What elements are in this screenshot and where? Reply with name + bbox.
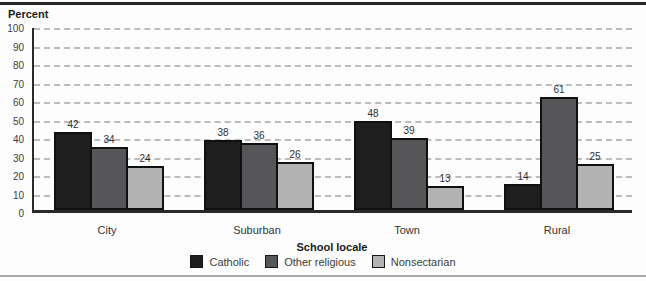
bar-town-catholic — [354, 121, 392, 210]
y-tick-label-100: 100 — [0, 23, 28, 34]
plot-area: 423424383626483913146125 — [32, 28, 632, 213]
bar-city-other-religious — [90, 147, 128, 210]
bar-value-label: 61 — [540, 84, 578, 95]
bar-value-label: 14 — [504, 171, 542, 182]
legend-swatch-icon — [265, 255, 278, 268]
bar-suburban-catholic — [204, 140, 242, 210]
bar-rural-catholic — [504, 184, 542, 210]
legend-swatch-icon — [372, 255, 385, 268]
legend: CatholicOther religiousNonsectarian — [0, 255, 646, 268]
bar-value-label: 26 — [276, 149, 314, 160]
bottom-border-rule — [0, 275, 646, 277]
category-label-town: Town — [332, 224, 482, 236]
bar-suburban-nonsectarian — [276, 162, 314, 210]
category-label-suburban: Suburban — [182, 224, 332, 236]
legend-swatch-icon — [190, 255, 203, 268]
bar-city-catholic — [54, 132, 92, 210]
bar-group-suburban: 383626 — [184, 28, 334, 210]
y-tick-label-30: 30 — [0, 153, 28, 164]
top-border-rule — [0, 2, 646, 5]
legend-label: Catholic — [209, 256, 249, 268]
legend-label: Other religious — [284, 256, 356, 268]
bar-group-city: 423424 — [34, 28, 184, 210]
bar-chart-figure: Percent 0102030405060708090100 423424383… — [0, 0, 646, 281]
bar-city-nonsectarian — [126, 166, 164, 210]
legend-item-other-religious: Other religious — [265, 255, 356, 268]
y-tick-label-60: 60 — [0, 97, 28, 108]
y-axis-title: Percent — [8, 8, 48, 20]
bar-rural-other-religious — [540, 97, 578, 210]
legend-item-catholic: Catholic — [190, 255, 249, 268]
y-tick-label-20: 20 — [0, 171, 28, 182]
bar-value-label: 38 — [204, 127, 242, 138]
y-tick-label-40: 40 — [0, 134, 28, 145]
category-label-rural: Rural — [482, 224, 632, 236]
bar-value-label: 25 — [576, 151, 614, 162]
bar-group-rural: 146125 — [484, 28, 634, 210]
y-tick-label-50: 50 — [0, 116, 28, 127]
bar-value-label: 13 — [426, 173, 464, 184]
y-tick-label-80: 80 — [0, 60, 28, 71]
bar-value-label: 24 — [126, 153, 164, 164]
bar-value-label: 42 — [54, 119, 92, 130]
bar-value-label: 36 — [240, 130, 278, 141]
bar-town-other-religious — [390, 138, 428, 210]
bar-value-label: 39 — [390, 125, 428, 136]
legend-item-nonsectarian: Nonsectarian — [372, 255, 456, 268]
bar-rural-nonsectarian — [576, 164, 614, 210]
y-tick-label-0: 0 — [0, 208, 28, 219]
x-axis-title: School locale — [32, 241, 632, 253]
y-tick-label-70: 70 — [0, 79, 28, 90]
bar-suburban-other-religious — [240, 143, 278, 210]
bar-town-nonsectarian — [426, 186, 464, 210]
bar-group-town: 483913 — [334, 28, 484, 210]
y-tick-label-10: 10 — [0, 190, 28, 201]
legend-label: Nonsectarian — [391, 256, 456, 268]
bar-value-label: 48 — [354, 108, 392, 119]
bar-value-label: 34 — [90, 134, 128, 145]
y-tick-label-90: 90 — [0, 42, 28, 53]
category-label-city: City — [32, 224, 182, 236]
